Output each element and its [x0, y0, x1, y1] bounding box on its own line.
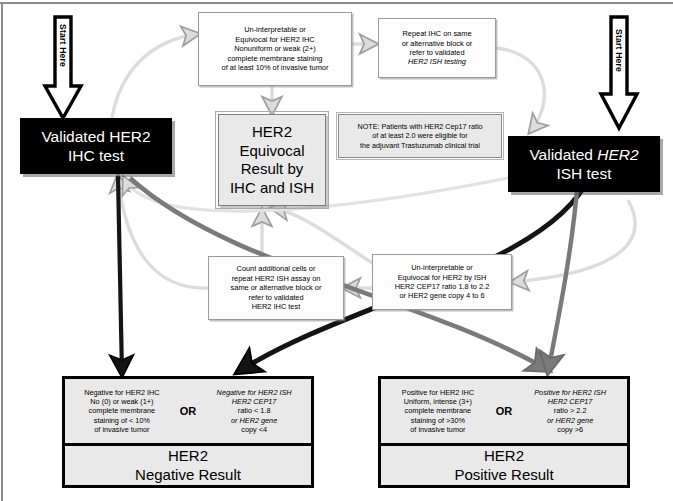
- positive-verdict-l1: HER2: [484, 447, 524, 464]
- neg-ish-l5: copy <4: [241, 425, 267, 434]
- ish-test-line1-italic: HER2: [597, 146, 638, 163]
- note-l1: NOTE: Patients with HER2 Cep17 ratio: [357, 122, 482, 131]
- positive-ihc-criteria: Positive for HER2 IHC Uniform, intense (…: [383, 388, 493, 434]
- note-l2: of at least 2.0 were eligible for: [372, 131, 468, 140]
- her2-negative-result-group[interactable]: Negative for HER2 IHC No (0) or weak (1+…: [62, 376, 314, 488]
- ihc-equivocal-criteria-box[interactable]: Un-interpretable or Equivocal for HER2 I…: [198, 12, 352, 86]
- neg-ihc-l4: staining of < 10%: [94, 416, 150, 425]
- wire-ihc-to-ihc-equivocal: [112, 34, 198, 118]
- repeat-ihc-l1: Repeat IHC on same: [402, 29, 471, 38]
- start-here-arrow-left: Start Here: [42, 14, 84, 122]
- pos-ihc-l2: Uniform, intense (3+): [404, 397, 472, 406]
- neg-ihc-l3: complete membrane: [89, 406, 156, 415]
- repeat-ihc-box[interactable]: Repeat IHC on same or alternative block …: [378, 18, 496, 78]
- ihc-equivocal-l1: Un-interpretable or: [244, 25, 306, 34]
- positive-or-label: OR: [493, 405, 516, 417]
- positive-criteria-row: Positive for HER2 IHC Uniform, intense (…: [381, 379, 627, 446]
- pos-ish-l2: HER2 CEP17: [548, 397, 593, 406]
- note-l3: the adjuvant Trastuzumab clinical trial: [360, 141, 480, 150]
- ish-equivocal-criteria-box[interactable]: Un-interpretable or Equivocal for HER2 b…: [372, 254, 512, 310]
- equivocal-result-l4: IHC and ISH: [230, 179, 314, 196]
- pos-ish-l3: ratio > 2.2: [554, 406, 587, 415]
- equivocal-result-l1: HER2: [252, 123, 292, 140]
- neg-ihc-l5: of invasive tumor: [94, 425, 149, 434]
- negative-or-label: OR: [177, 405, 200, 417]
- count-l1: Count additional cells or: [237, 264, 316, 273]
- negative-criteria-row: Negative for HER2 IHC No (0) or weak (1+…: [65, 379, 311, 446]
- her2-equivocal-result-box[interactable]: HER2 Equivocal Result by IHC and ISH: [218, 114, 326, 206]
- equivocal-result-l3: Result by: [241, 160, 304, 177]
- count-l4: refer to validated: [248, 293, 303, 302]
- positive-verdict: HER2 Positive Result: [381, 446, 627, 485]
- pos-ish-l5: copy >6: [557, 425, 583, 434]
- negative-ish-criteria: Negative for HER2 ISH HER2 CEP17 ratio <…: [199, 388, 309, 434]
- pos-ish-l4: or HER2 gene: [547, 416, 593, 425]
- ish-test-line1: Validated: [529, 146, 597, 163]
- ihc-equivocal-l2: Equivocal for HER2 IHC: [235, 35, 314, 44]
- positive-ish-criteria: Positive for HER2 ISH HER2 CEP17 ratio >…: [515, 388, 625, 434]
- ihc-equivocal-l3: Nonuniform or weak (2+): [234, 44, 316, 53]
- neg-ish-l4: or HER2 gene: [231, 416, 277, 425]
- repeat-ihc-l3: refer to validated: [409, 48, 464, 57]
- neg-ihc-l2: No (0) or weak (1+): [90, 397, 153, 406]
- ihc-equivocal-l4: complete membrane staining: [228, 54, 323, 63]
- ish-equivocal-l2: Equivocal for HER2 by ISH: [398, 273, 487, 282]
- flowchart-canvas: Start Here Start Here Validated HER2 IHC…: [0, 0, 673, 501]
- count-l5: HER2 IHC test: [252, 302, 300, 311]
- count-l2: repeat HER2 ISH assay on: [232, 274, 321, 283]
- neg-ish-l3: ratio < 1.8: [238, 406, 271, 415]
- start-here-label-right: Start Here: [614, 29, 624, 72]
- validated-her2-ihc-test-box[interactable]: Validated HER2 IHC test: [20, 118, 172, 174]
- ish-equivocal-l4: or HER2 gene copy 4 to 6: [399, 291, 484, 300]
- positive-verdict-l2: Positive Result: [454, 466, 553, 483]
- negative-verdict: HER2 Negative Result: [65, 446, 311, 485]
- her2-positive-result-group[interactable]: Positive for HER2 IHC Uniform, intense (…: [378, 376, 630, 488]
- negative-ihc-criteria: Negative for HER2 IHC No (0) or weak (1+…: [67, 388, 177, 434]
- pos-ish-l1: Positive for HER2 ISH: [534, 388, 606, 397]
- ish-equivocal-l3: HER2 CEP17 ratio 1.8 to 2.2: [395, 282, 490, 291]
- neg-ihc-l1: Negative for HER2 IHC: [84, 388, 159, 397]
- neg-ish-l2: HER2 CEP17: [232, 397, 277, 406]
- pos-ihc-l4: staining of >30%: [411, 416, 465, 425]
- note-box: NOTE: Patients with HER2 Cep17 ratio of …: [338, 114, 502, 158]
- ish-equivocal-l1: Un-interpretable or: [411, 263, 473, 272]
- pos-ihc-l3: complete membrane: [405, 406, 472, 415]
- count-additional-cells-box[interactable]: Count additional cells or repeat HER2 IS…: [208, 256, 344, 320]
- validated-her2-ish-test-box[interactable]: Validated HER2 ISH test: [508, 136, 660, 192]
- wire-repeat-to-ish-test: [496, 48, 544, 132]
- negative-verdict-l1: HER2: [168, 447, 208, 464]
- pos-ihc-l1: Positive for HER2 IHC: [402, 388, 474, 397]
- pos-ihc-l5: of invasive tumor: [410, 425, 465, 434]
- ihc-test-line1: Validated HER2: [41, 128, 150, 145]
- neg-ish-l1: Negative for HER2 ISH: [217, 388, 292, 397]
- ihc-test-line2: IHC test: [68, 147, 124, 164]
- ish-test-line2: ISH test: [556, 165, 611, 182]
- start-here-label-left: Start Here: [58, 24, 68, 67]
- count-l3: same or alternative block or: [231, 283, 322, 292]
- negative-verdict-l2: Negative Result: [135, 466, 241, 483]
- equivocal-result-l2: Equivocal: [239, 142, 304, 159]
- wire-count-to-ihc-test: [118, 176, 208, 288]
- start-here-arrow-right: Start Here: [598, 14, 640, 132]
- repeat-ihc-l2: or alternative block or: [402, 39, 473, 48]
- repeat-ihc-l4: HER2 ISH testing: [408, 57, 466, 66]
- ihc-equivocal-l5: of at least 10% of invasive tumor: [222, 63, 329, 72]
